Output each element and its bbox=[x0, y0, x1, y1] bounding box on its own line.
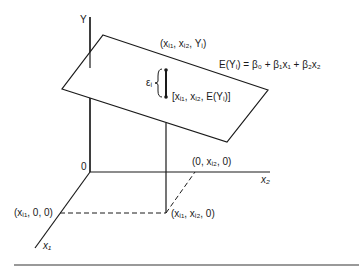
x1-projection-label: (xᵢ₁, 0, 0) bbox=[14, 208, 53, 218]
x2-projection-dash bbox=[166, 172, 195, 213]
base-projection-label: (xᵢ₁, xᵢ₂, 0) bbox=[171, 209, 215, 219]
y-axis-label: Y bbox=[80, 15, 87, 25]
origin-label: 0 bbox=[81, 162, 87, 172]
x2-axis-label: x₂ bbox=[261, 175, 270, 185]
error-label: εᵢ bbox=[146, 78, 152, 88]
x1-axis-label: x₁ bbox=[43, 241, 51, 251]
x2-projection-label: (0, xᵢ₂, 0) bbox=[192, 157, 231, 167]
observed-point-label: (xᵢ₁, xᵢ₂, Yᵢ) bbox=[160, 39, 206, 49]
regression-equation: E(Yᵢ) = β₀ + β₁x₁ + β₂x₂ bbox=[219, 60, 321, 70]
expected-point-label: [xᵢ₁, xᵢ₂, E(Yᵢ)] bbox=[172, 92, 231, 102]
